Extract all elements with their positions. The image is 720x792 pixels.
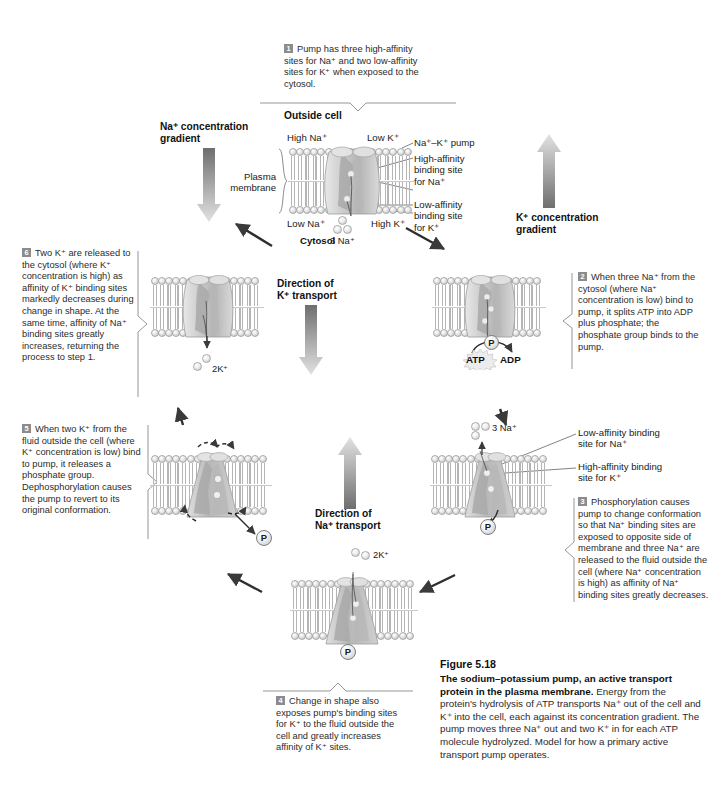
figure-number: Figure 5.18 xyxy=(440,658,702,671)
phosphate-circle: P xyxy=(256,530,272,546)
k-ion xyxy=(351,548,360,557)
figure-caption-text: The sodium–potassium pump, an active tra… xyxy=(440,673,702,761)
step-2-badge: 2 xyxy=(578,272,587,281)
step-2-text: 2When three Na⁺ from the cytosol (where … xyxy=(578,272,704,353)
step-5-badge: 5 xyxy=(22,424,31,433)
phosphate-circle: P xyxy=(480,519,496,535)
k-gradient-arrow xyxy=(536,134,562,210)
na-ion xyxy=(481,422,490,431)
na-ion xyxy=(343,225,352,234)
step-2-bracket xyxy=(562,272,574,370)
low-k-label: Low K⁺ xyxy=(367,132,399,143)
pump-protein-state-1 xyxy=(320,146,384,218)
two-k-label-bottom: 2K⁺ xyxy=(373,549,389,560)
step-1-badge: 1 xyxy=(284,44,293,53)
k-ion xyxy=(361,551,370,560)
step-3-badge: 3 xyxy=(578,497,587,506)
pump-protein-state-4 xyxy=(320,570,386,650)
direction-na-label: Direction of Na⁺ transport xyxy=(315,508,415,532)
outside-cell-label: Outside cell xyxy=(284,110,342,122)
step-4-badge: 4 xyxy=(276,696,285,705)
step-4-body: Change in shape also exposes pump's bind… xyxy=(276,696,397,752)
na-ion xyxy=(338,216,347,225)
pump-protein-state-6 xyxy=(179,275,237,341)
plasma-membrane-label: Plasma membrane xyxy=(216,171,276,194)
two-k-label-left: 2K⁺ xyxy=(212,363,228,374)
step-2-body: When three Na⁺ from the cytosol (where N… xyxy=(578,272,698,352)
step-6-bracket xyxy=(136,250,148,398)
step-5-text: 5When two K⁺ from the fluid outside the … xyxy=(22,424,144,517)
na-release-arrow xyxy=(474,437,490,457)
k-gradient-label: K⁺ concentration gradient xyxy=(516,212,628,236)
high-k-label: High K⁺ xyxy=(371,218,405,229)
three-na-label: 3 Na⁺ xyxy=(330,235,355,246)
na-k-pump-label: Na⁺–K⁺ pump xyxy=(414,137,475,148)
k-ion xyxy=(202,354,211,363)
na-ion xyxy=(471,422,480,431)
step-5-body: When two K⁺ from the fluid outside the c… xyxy=(22,424,141,515)
step-3-text: 3Phosphorylation causes pump to change c… xyxy=(578,497,710,601)
high-affinity-na-label: High-affinity binding site for Na⁺ xyxy=(414,153,514,187)
step-3-bracket xyxy=(564,497,576,603)
plasma-membrane-bracket xyxy=(278,148,288,214)
pump-protein-state-2 xyxy=(461,275,519,341)
three-na-label-right: 3 Na⁺ xyxy=(492,422,517,433)
direction-k-arrow xyxy=(298,305,324,377)
step-3-body: Phosphorylation causes pump to change co… xyxy=(578,497,708,600)
step-6-badge: 6 xyxy=(22,248,31,257)
direction-na-arrow xyxy=(337,437,363,509)
direction-k-label: Direction of K⁺ transport xyxy=(277,278,377,302)
figure-caption: Figure 5.18 The sodium–potassium pump, a… xyxy=(440,658,702,761)
adp-label: ADP xyxy=(500,354,521,366)
k-release-arrow xyxy=(199,336,215,354)
k-ion xyxy=(193,362,202,371)
phosphate-circle: P xyxy=(340,644,356,660)
na-gradient-label: Na⁺ concentration gradient xyxy=(160,121,270,145)
high-na-label: High Na⁺ xyxy=(287,132,327,143)
low-na-label: Low Na⁺ xyxy=(287,218,325,229)
high-affinity-k-label: High-affinity binding site for K⁺ xyxy=(578,461,708,484)
na-ion xyxy=(471,431,480,440)
low-affinity-k-label: Low-affinity binding site for K⁺ xyxy=(414,199,514,233)
low-affinity-na-label: Low-affinity binding site for Na⁺ xyxy=(578,427,708,450)
step-4-text: 4Change in shape also exposes pump's bin… xyxy=(276,696,406,754)
step-4-bracket xyxy=(262,682,414,694)
step-1-text: 1Pump has three high-affinity sites for … xyxy=(284,44,432,90)
na-ion xyxy=(333,225,342,234)
step-1-body: Pump has three high-affinity sites for N… xyxy=(284,44,419,89)
step-6-body: Two K⁺ are released to the cytosol (wher… xyxy=(22,248,134,362)
step-6-text: 6Two K⁺ are released to the cytosol (whe… xyxy=(22,248,134,364)
atp-label: ATP xyxy=(466,354,485,366)
